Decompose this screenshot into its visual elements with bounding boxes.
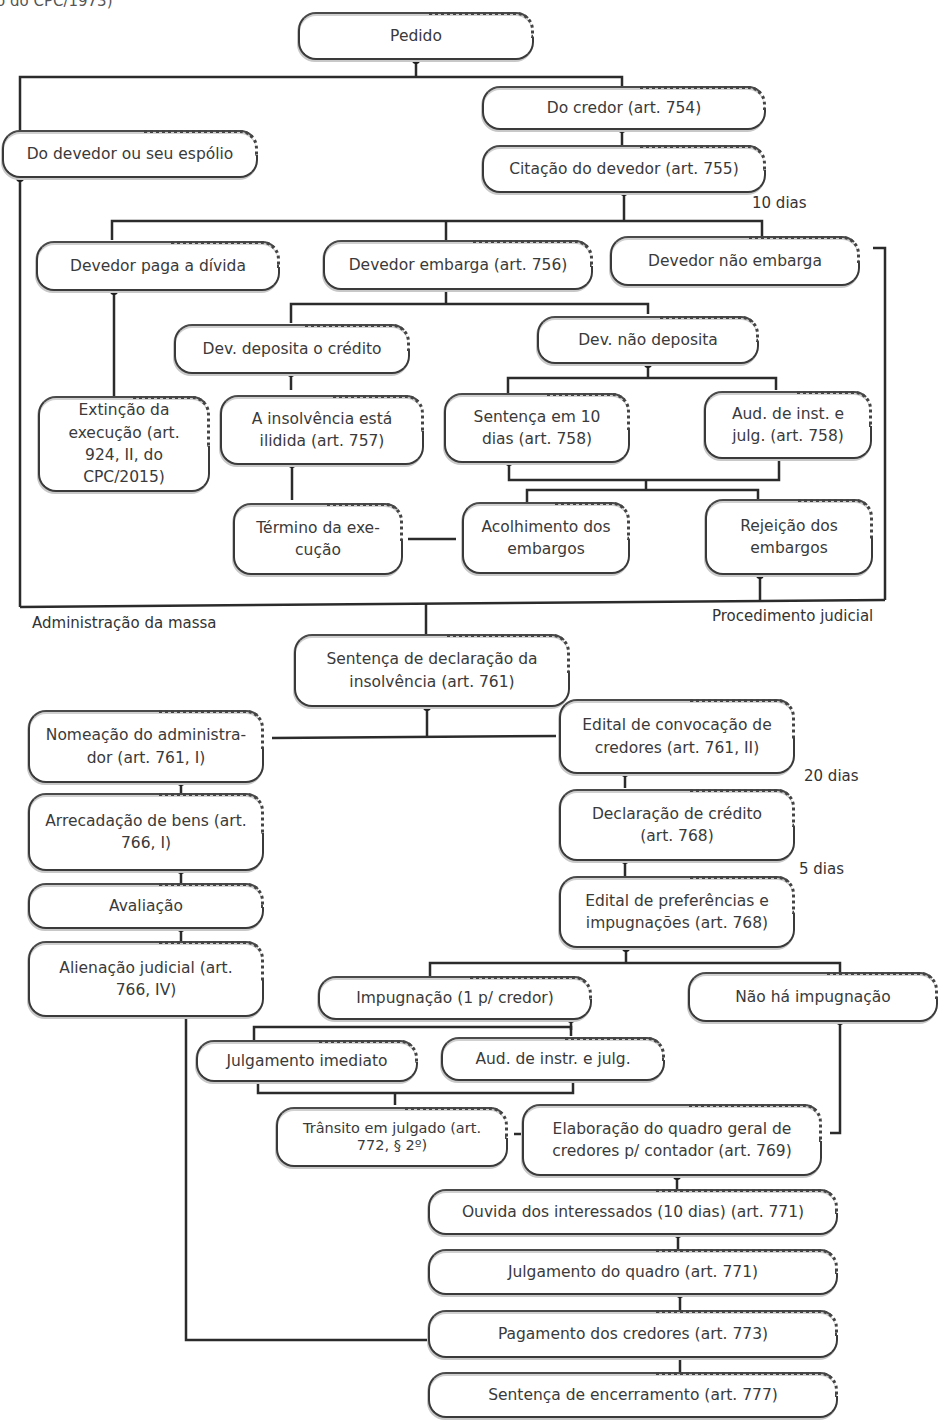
node-aud-inst-julg: Aud. de inst. e julg. (art. 758) [704, 391, 872, 459]
node-label: Do credor (art. 754) [547, 97, 702, 119]
node-arrecadacao: Arrecadação de bens (art. 766, I) [28, 793, 264, 871]
node-insolvencia-ilidida: A insolvência está ilidida (art. 757) [220, 395, 424, 465]
node-termino-execucao: Término da exe-cução [233, 503, 403, 575]
label-procedimento-judicial: Procedimento judicial [712, 607, 873, 625]
label-10-dias: 10 dias [752, 194, 807, 212]
node-devedor-nao-embarga: Devedor não embarga [610, 236, 860, 286]
insolvency-flowchart: o do CPC/1973) [0, 0, 938, 1426]
node-julgamento-imediato: Julgamento imediato [196, 1040, 418, 1082]
node-label: Dev. não deposita [578, 329, 718, 351]
node-label: Do devedor ou seu espólio [27, 143, 234, 165]
node-aud-instr-julg: Aud. de instr. e julg. [441, 1037, 665, 1081]
header-fragment: o do CPC/1973) [0, 0, 112, 10]
node-label: Término da exe-cução [249, 517, 387, 562]
node-label: Pedido [390, 25, 442, 47]
node-label: Devedor não embarga [648, 250, 822, 272]
node-label: Edital de convocação de credores (art. 7… [575, 714, 779, 759]
node-label: Extinção da execução (art. 924, II, do C… [54, 399, 194, 489]
node-label: Declaração de crédito (art. 768) [575, 803, 779, 848]
node-label: Nomeação do administra-dor (art. 761, I) [44, 724, 248, 769]
node-label: Ouvida dos interessados (10 dias) (art. … [462, 1201, 804, 1223]
node-label: Arrecadação de bens (art. 766, I) [44, 810, 248, 855]
node-label: Trânsito em julgado (art. 772, § 2º) [292, 1120, 492, 1153]
node-elaboracao-quadro: Elaboração do quadro geral de credores p… [522, 1104, 822, 1176]
node-ouvida-interessados: Ouvida dos interessados (10 dias) (art. … [428, 1189, 838, 1235]
node-label: Sentença de encerramento (art. 777) [488, 1384, 778, 1406]
node-avaliacao: Avaliação [28, 883, 264, 929]
node-julgamento-quadro: Julgamento do quadro (art. 771) [428, 1249, 838, 1295]
node-label: Sentença em 10 dias (art. 758) [460, 406, 614, 451]
node-label: Devedor paga a dívida [70, 255, 246, 277]
node-transito-julgado: Trânsito em julgado (art. 772, § 2º) [276, 1107, 508, 1167]
node-label: Devedor embarga (art. 756) [349, 254, 568, 276]
node-label: Aud. de instr. e julg. [475, 1048, 630, 1070]
node-sentenca-encerramento: Sentença de encerramento (art. 777) [428, 1372, 838, 1418]
node-label: Citação do devedor (art. 755) [509, 158, 739, 180]
node-label: Elaboração do quadro geral de credores p… [538, 1118, 806, 1163]
node-label: Avaliação [109, 895, 183, 917]
node-declaracao-credito: Declaração de crédito (art. 768) [559, 789, 795, 861]
node-sentenca-declaracao: Sentença de declaração da insolvência (a… [294, 634, 570, 707]
node-do-credor: Do credor (art. 754) [482, 86, 766, 130]
node-label: Julgamento do quadro (art. 771) [508, 1261, 758, 1283]
node-label: A insolvência está ilidida (art. 757) [236, 408, 408, 453]
node-acolhimento: Acolhimento dos embargos [462, 502, 630, 574]
node-label: Aud. de inst. e julg. (art. 758) [720, 403, 856, 448]
node-label: Sentença de declaração da insolvência (a… [310, 648, 554, 693]
node-dev-deposita: Dev. deposita o crédito [174, 324, 410, 374]
node-label: Dev. deposita o crédito [202, 338, 381, 360]
node-label: Alienação judicial (art. 766, IV) [44, 957, 248, 1002]
label-administracao-massa: Administração da massa [32, 614, 217, 632]
node-dev-nao-deposita: Dev. não deposita [537, 316, 759, 364]
node-label: Pagamento dos credores (art. 773) [498, 1323, 768, 1345]
node-extincao: Extinção da execução (art. 924, II, do C… [38, 396, 210, 492]
node-label: Edital de preferências e impugnações (ar… [575, 890, 779, 935]
node-alienacao: Alienação judicial (art. 766, IV) [28, 941, 264, 1017]
node-pedido: Pedido [298, 12, 534, 60]
node-label: Rejeição dos embargos [721, 515, 857, 560]
node-rejeicao: Rejeição dos embargos [705, 499, 873, 575]
node-devedor-paga: Devedor paga a dívida [36, 241, 280, 291]
node-nao-ha-impugnacao: Não há impugnação [688, 972, 938, 1022]
node-label: Acolhimento dos embargos [478, 516, 614, 561]
node-impugnacao: Impugnação (1 p/ credor) [318, 976, 592, 1020]
node-citacao: Citação do devedor (art. 755) [482, 145, 766, 193]
label-5-dias: 5 dias [799, 860, 844, 878]
node-nomeacao-admin: Nomeação do administra-dor (art. 761, I) [28, 710, 264, 783]
node-pagamento-credores: Pagamento dos credores (art. 773) [428, 1310, 838, 1358]
node-edital-preferencias: Edital de preferências e impugnações (ar… [559, 876, 795, 948]
node-label: Julgamento imediato [226, 1050, 387, 1072]
node-edital-convocacao: Edital de convocação de credores (art. 7… [559, 699, 795, 774]
node-label: Impugnação (1 p/ credor) [356, 987, 554, 1009]
node-sentenca-10-dias: Sentença em 10 dias (art. 758) [444, 393, 630, 463]
node-do-devedor: Do devedor ou seu espólio [2, 130, 258, 178]
node-label: Não há impugnação [735, 986, 890, 1008]
label-20-dias: 20 dias [804, 767, 859, 785]
node-devedor-embarga: Devedor embarga (art. 756) [323, 240, 593, 290]
